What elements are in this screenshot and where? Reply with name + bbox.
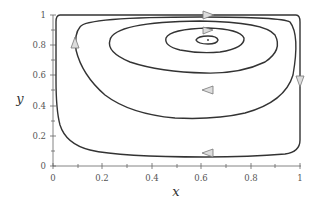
y-tick-0.4: 0.4 [32, 101, 46, 111]
x-tick-0.8: 0.8 [244, 173, 258, 183]
x-tick-0.2: 0.2 [95, 173, 109, 183]
streamlines [56, 15, 300, 157]
flow-arrows [71, 11, 304, 157]
y-tick-labels: 0 0.2 0.4 0.6 0.8 1 [32, 10, 46, 171]
vortex-center-dot [207, 39, 209, 41]
y-tick-1: 1 [41, 10, 46, 20]
streamline-plot: 0 0.2 0.4 0.6 0.8 1 0 0.2 0.4 0.6 0.8 1 … [0, 0, 317, 208]
arrow-up-icon [71, 37, 79, 48]
y-tick-0.2: 0.2 [32, 131, 46, 141]
arrow-left-icon [202, 86, 213, 94]
x-tick-0.4: 0.4 [145, 173, 159, 183]
streamline-2 [76, 17, 296, 118]
y-tick-0.8: 0.8 [32, 40, 46, 50]
y-tick-0: 0 [41, 161, 46, 171]
x-tick-0: 0 [50, 173, 55, 183]
x-tick-0.6: 0.6 [194, 173, 208, 183]
y-tick-0.6: 0.6 [32, 70, 46, 80]
x-axis-label: x [172, 184, 180, 199]
arrow-right-icon [203, 11, 214, 19]
streamline-5 [196, 36, 218, 44]
x-tick-labels: 0 0.2 0.4 0.6 0.8 1 [50, 173, 302, 183]
y-axis-label: y [15, 91, 24, 106]
arrow-down-icon [296, 76, 304, 87]
x-tick-1: 1 [297, 173, 302, 183]
arrow-left-icon [202, 149, 213, 157]
streamline-1 [56, 15, 300, 157]
axes [50, 15, 301, 169]
